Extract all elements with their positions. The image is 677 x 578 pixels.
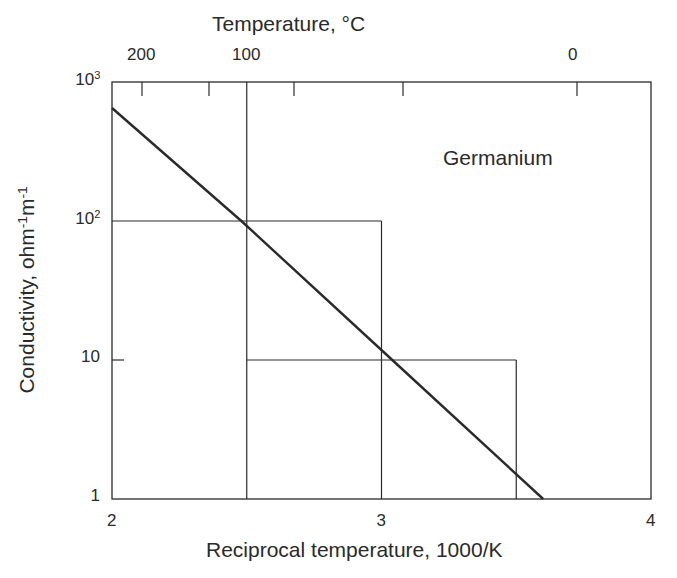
y-axis-title: Conductivity, ohm-1m-1 [15,186,40,393]
series-label-germanium: Germanium [443,146,553,170]
guide-lines [112,82,516,499]
y-tick-label: 10 [81,347,100,367]
top-axis-title: Temperature, °C [212,12,365,36]
top-axis-tick-label: 0 [568,45,577,65]
plot-area [0,0,677,578]
x-tick-label: 4 [646,511,655,531]
x-tick-label: 3 [377,511,386,531]
y-tick-label: 1 [91,486,100,506]
top-axis-tick-label: 200 [127,45,155,65]
top-axis-tick-label: 100 [232,45,260,65]
x-axis-title: Reciprocal temperature, 1000/K [206,538,503,562]
x-tick-label: 2 [107,511,116,531]
y-tick-label: 102 [75,208,100,229]
y-tick-label: 103 [75,69,100,90]
